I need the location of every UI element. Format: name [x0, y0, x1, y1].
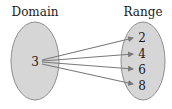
domain-title: Domain — [12, 5, 59, 19]
range-value: 2 — [138, 31, 146, 45]
mapping-diagram: Domain Range 3 2 4 6 8 — [0, 0, 172, 109]
range-title: Range — [124, 5, 163, 19]
domain-value: 3 — [31, 55, 39, 69]
range-value: 6 — [138, 63, 146, 77]
range-value: 4 — [138, 47, 146, 61]
range-value: 8 — [138, 79, 146, 93]
